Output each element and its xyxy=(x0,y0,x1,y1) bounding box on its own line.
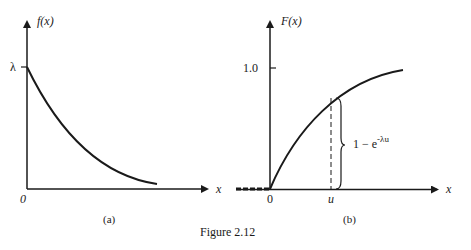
origin-label-a: 0 xyxy=(20,192,26,206)
annotation-base: 1 − e xyxy=(353,137,377,151)
one-label: 1.0 xyxy=(243,61,258,75)
u-label: u xyxy=(328,192,334,206)
x-axis-label-b: x xyxy=(445,182,452,196)
brace xyxy=(336,98,345,189)
panel-b: F(x) 1.0 1 − e-λu x 0 u (b) xyxy=(236,14,452,226)
annotation-label: 1 − e-λu xyxy=(353,134,389,151)
y-axis-label-a: f(x) xyxy=(37,14,54,28)
y-axis-label-b: F(x) xyxy=(280,14,302,28)
panel-label-a: (a) xyxy=(103,213,116,226)
density-curve xyxy=(27,67,157,184)
lambda-label: λ xyxy=(10,60,16,74)
origin-label-b: 0 xyxy=(267,192,273,206)
cdf-curve xyxy=(270,70,403,189)
figure: f(x) λ x 0 (a) F(x) 1.0 1 − e-λu x 0 u (… xyxy=(0,0,471,250)
x-axis-label-a: x xyxy=(215,182,222,196)
figure-caption: Figure 2.12 xyxy=(200,225,255,239)
panel-label-b: (b) xyxy=(343,213,356,226)
annotation-exponent: -λu xyxy=(377,134,389,144)
panel-a: f(x) λ x 0 (a) xyxy=(10,14,222,226)
